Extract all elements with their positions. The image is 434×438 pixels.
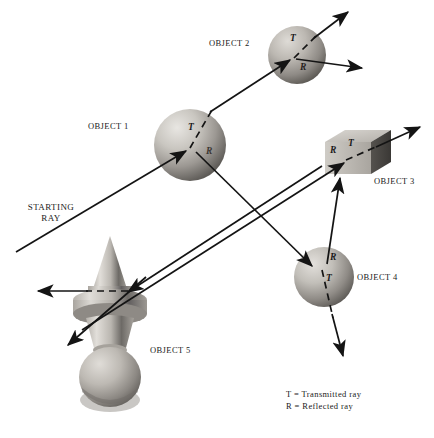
obj1-transmitted-mark: T: [188, 122, 194, 132]
ray-obj1-reflected: [196, 152, 312, 266]
legend-transmitted: T = Transmitted ray: [286, 389, 361, 401]
ray-obj4-transmitted-out: [332, 314, 343, 356]
ray-obj3-reflected-to-obj5: [128, 166, 322, 292]
ray-obj5-to-obj3: [82, 163, 344, 330]
ray-obj1-to-obj2: [210, 60, 290, 112]
obj3-transmitted-mark: T: [348, 138, 354, 148]
obj1-reflected-mark: R: [206, 146, 213, 156]
obj4-transmitted-mark: T: [326, 273, 332, 283]
obj2-reflected-mark: R: [300, 62, 307, 72]
ray-obj2-transmitted-out: [314, 12, 348, 38]
object-4-label: OBJECT 4: [357, 272, 398, 282]
obj2-transmitted-mark: T: [290, 33, 296, 43]
starting-ray-label-line2: RAY: [14, 213, 88, 224]
object-3-label: OBJECT 3: [374, 176, 415, 186]
object-2-label: OBJECT 2: [209, 38, 250, 48]
obj3-reflected-mark: R: [330, 145, 337, 155]
legend-reflected: R = Reflected ray: [286, 401, 361, 413]
obj4-reflected-mark: R: [330, 252, 337, 262]
object-5-finial: [73, 236, 147, 412]
starting-ray-label-line1: STARTING: [14, 202, 88, 213]
object-1-label: OBJECT 1: [88, 121, 129, 131]
object-5-label: OBJECT 5: [150, 345, 191, 355]
